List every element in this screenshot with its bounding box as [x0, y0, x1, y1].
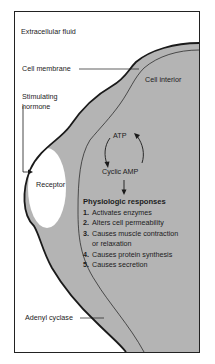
- response-item: 5.Causes secretion: [83, 261, 178, 269]
- cyclic-amp-label: Cyclic AMP: [102, 168, 138, 176]
- response-number: 4.: [83, 251, 92, 259]
- response-text: Causes protein synthesis: [92, 250, 172, 259]
- physiologic-responses-title: Physiologic responses: [83, 198, 178, 206]
- response-text: Activates enzymes: [92, 208, 152, 217]
- adenyl-cyclase-label: Adenyl cyclase: [25, 314, 73, 322]
- response-item: 1.Activates enzymes: [83, 209, 178, 217]
- response-number: 5.: [83, 261, 92, 269]
- response-number: 2.: [83, 219, 92, 227]
- diagram-canvas: [0, 0, 215, 364]
- response-number: 1.: [83, 209, 92, 217]
- response-text: or relaxation: [92, 239, 132, 248]
- stimulating-hormone-label-line1: Stimulating: [22, 93, 58, 101]
- cell-interior-label: Cell interior: [145, 76, 181, 84]
- atp-label: ATP: [113, 132, 126, 140]
- response-text: Causes muscle contraction: [92, 229, 178, 238]
- response-item: 3.Causes muscle contraction: [83, 230, 178, 238]
- response-item: or relaxation: [83, 240, 178, 248]
- extracellular-fluid-label: Extracellular fluid: [21, 28, 76, 36]
- physiologic-responses: Physiologic responses 1.Activates enzyme…: [83, 198, 178, 269]
- response-text: Alters cell permeability: [92, 218, 164, 227]
- receptor-label: Receptor: [36, 181, 65, 189]
- cell-membrane-label: Cell membrane: [22, 65, 71, 73]
- response-number: 3.: [83, 230, 92, 238]
- stimulating-hormone-label-line2: hormone: [22, 103, 50, 111]
- response-item: 2.Alters cell permeability: [83, 219, 178, 227]
- response-item: 4.Causes protein synthesis: [83, 251, 178, 259]
- response-text: Causes secretion: [92, 260, 148, 269]
